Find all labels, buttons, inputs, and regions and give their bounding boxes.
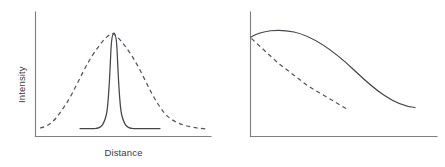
right-plot-canvas: [222, 0, 445, 167]
right-low-mtf-curve: [252, 39, 347, 109]
amplitude-vs-spatial-frequency-plot: Amplitude Spatial frequency: [222, 0, 445, 167]
left-x-axis-label: Distance: [36, 147, 211, 158]
left-plot-canvas: [0, 0, 222, 167]
two-panel-figure: Intensity Distance Amplitude Spatial fre…: [0, 0, 445, 167]
intensity-vs-distance-plot: Intensity Distance: [0, 0, 222, 167]
right-high-mtf-curve: [251, 30, 415, 107]
left-narrow-peak-curve: [80, 33, 160, 129]
left-y-axis-label: Intensity: [16, 66, 27, 103]
left-broad-peak-curve: [40, 34, 206, 130]
